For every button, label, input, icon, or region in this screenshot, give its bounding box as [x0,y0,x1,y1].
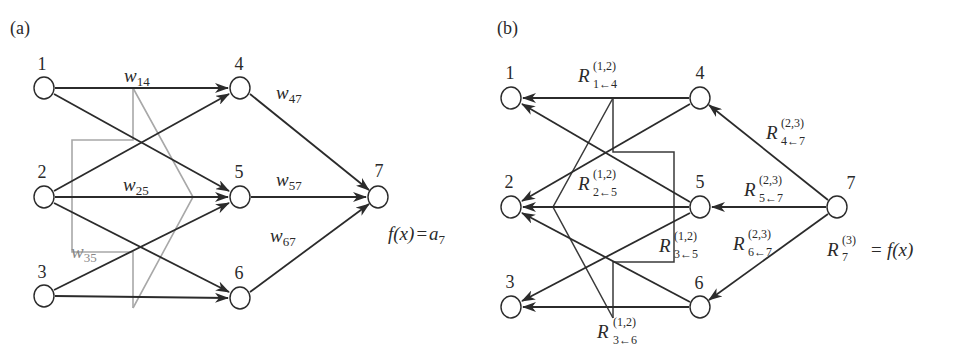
svg-text:4←7: 4←7 [781,134,805,148]
svg-text:1←4: 1←4 [593,77,617,91]
node-a-4-label: 4 [235,54,244,74]
node-b-4 [690,87,710,109]
svg-text:R: R [732,233,745,254]
weight-labels-a: w14 w25 w35 w47 w57 w67 f(x)=a7 [71,65,446,265]
node-b-7-label: 7 [847,173,856,193]
svg-text:(2,3): (2,3) [759,173,782,187]
r25-pointer-line [553,98,613,318]
node-b-1 [501,87,521,109]
node-b-1-label: 1 [506,63,515,83]
svg-text:R: R [577,65,590,86]
r36-label: R (1,2) 3←6 [596,315,637,347]
svg-text:3←6: 3←6 [613,333,637,347]
weight-pointers-a [72,88,193,308]
node-b-6-label: 6 [695,273,704,293]
svg-text:(1,2): (1,2) [593,59,616,73]
node-a-2-label: 2 [38,162,47,182]
node-b-6 [690,296,710,318]
svg-text:6←7: 6←7 [748,245,772,259]
node-b-7 [827,196,847,218]
svg-text:5←7: 5←7 [759,191,783,205]
node-b-5 [690,196,710,218]
edge-4-7 [250,94,369,190]
svg-text:R: R [743,179,756,200]
panel-a: (a) [10,18,446,309]
svg-text:R: R [658,235,671,256]
node-b-2 [501,196,521,218]
node-b-5-label: 5 [696,172,705,192]
node-b-3 [501,296,521,318]
w35-label: w35 [71,241,97,265]
edge-3-6 [55,296,228,298]
svg-text:R: R [577,173,590,194]
node-a-1 [34,77,54,99]
r14-label: R (1,2) 1←4 [577,59,617,91]
node-a-6 [230,287,250,309]
node-a-1-label: 1 [38,54,47,74]
w14-label: w14 [124,65,150,89]
panel-a-label: (a) [10,18,30,39]
svg-text:2←5: 2←5 [593,185,617,199]
svg-text:(2,3): (2,3) [781,116,804,130]
node-a-5-label: 5 [235,162,244,182]
node-a-3 [34,285,54,307]
node-b-2-label: 2 [505,172,514,192]
svg-text:f(x): f(x) [887,239,913,261]
svg-text:(1,2): (1,2) [613,315,636,329]
w47-label: w47 [276,82,302,106]
svg-text:3←5: 3←5 [674,247,698,261]
output-b-formula: R (3) 7 = f(x) [826,233,913,264]
w25-pointer-line [133,88,193,308]
r57-label: R (2,3) 5←7 [743,173,783,205]
node-a-7-label: 7 [375,161,384,181]
svg-text:R: R [596,321,609,342]
relevance-labels-b: R (1,2) 1←4 R (1,2) 2←5 R (1,2) 3←5 R (1… [577,59,913,347]
r67-label: R (2,3) 6←7 [732,227,772,259]
panel-b: (b) [497,18,913,347]
node-a-6-label: 6 [235,263,244,283]
svg-text:(1,2): (1,2) [674,229,697,243]
node-a-2 [34,186,54,208]
r47-label: R (2,3) 4←7 [765,116,805,148]
svg-text:(1,2): (1,2) [593,167,616,181]
panel-b-label: (b) [497,18,518,39]
r35-label: R (1,2) 3←5 [658,229,698,261]
node-a-7 [368,186,388,208]
figure-canvas: (a) [0,0,960,360]
svg-text:(3): (3) [842,233,856,247]
w57-label: w57 [276,169,302,193]
node-b-3-label: 3 [506,272,515,292]
node-b-4-label: 4 [696,63,705,83]
output-a-formula: f(x)=a7 [388,223,446,247]
svg-text:R: R [765,122,778,143]
node-a-5 [230,186,250,208]
w67-label: w67 [270,225,296,249]
w25-label: w25 [123,174,149,198]
svg-text:7: 7 [842,250,848,264]
r25-label: R (1,2) 2←5 [577,167,617,199]
relevance-pointers-b [553,98,674,318]
svg-text:R: R [826,239,839,260]
svg-text:(2,3): (2,3) [748,227,771,241]
edge-6-7 [250,204,369,292]
edges-a [54,88,369,298]
node-a-4 [230,77,250,99]
svg-text:=: = [871,239,882,260]
node-a-3-label: 3 [38,262,47,282]
